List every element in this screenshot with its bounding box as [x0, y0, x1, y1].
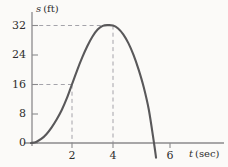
y-tick-label-16: 16: [6, 79, 26, 90]
y-tick-label-24: 24: [6, 49, 26, 60]
position-time-figure: 32 24 16 8 0 2 4 6 s (ft) t (sec): [0, 0, 228, 167]
x-axis-label: t (sec): [189, 149, 219, 159]
x-tick-label-4: 4: [105, 150, 121, 161]
y-tick-label-0: 0: [6, 137, 26, 148]
position-curve: [31, 25, 156, 158]
y-axis-label: s (ft): [36, 4, 59, 14]
x-tick-label-2: 2: [64, 150, 80, 161]
plot-canvas: [0, 0, 228, 167]
y-tick-label-8: 8: [6, 108, 26, 119]
x-tick-label-6: 6: [162, 150, 178, 161]
x-axis-unit: (sec): [195, 148, 219, 159]
x-axis-symbol: t: [189, 148, 193, 159]
y-axis-unit: (ft): [43, 3, 59, 14]
y-tick-marks: [32, 26, 38, 144]
y-tick-label-32: 32: [6, 20, 26, 31]
y-axis-symbol: s: [36, 3, 41, 14]
